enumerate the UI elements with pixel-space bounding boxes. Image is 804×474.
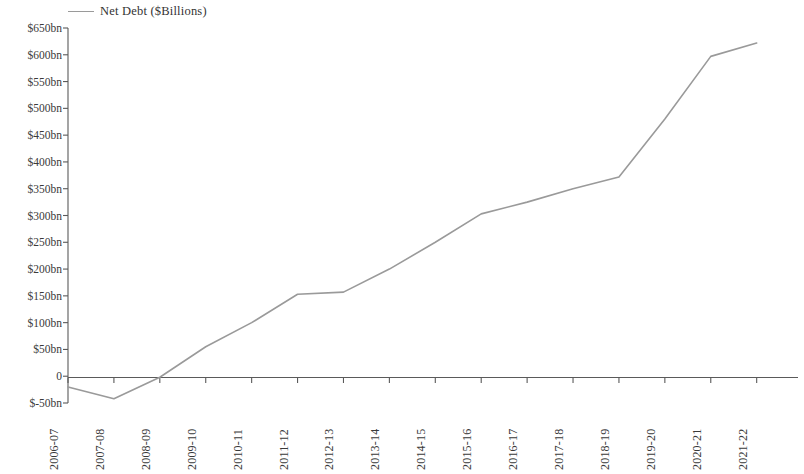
x-axis-tick-label: 2019-20 <box>644 429 659 470</box>
x-axis-tick-label: 2017-18 <box>552 429 567 470</box>
net-debt-line-chart: Net Debt ($Billions) $650bn$600bn$550bn$… <box>0 0 804 474</box>
x-axis-tick-label: 2007-08 <box>93 429 108 470</box>
x-axis-tick-label: 2011-12 <box>277 429 292 470</box>
x-axis-tick-label: 2018-19 <box>598 429 613 470</box>
x-axis-tick-label: 2021-22 <box>736 429 751 470</box>
x-axis-tick-label: 2016-17 <box>506 429 521 470</box>
x-axis-tick-label: 2015-16 <box>460 429 475 470</box>
x-axis-tick-label: 2010-11 <box>231 429 246 470</box>
x-axis-tick-label: 2009-10 <box>185 429 200 470</box>
x-axis-tick-label: 2006-07 <box>47 429 62 470</box>
x-axis-tick-label: 2013-14 <box>368 429 383 470</box>
x-axis-tick-label: 2008-09 <box>139 429 154 470</box>
x-axis-labels: 2006-072007-082008-092009-102010-112011-… <box>0 0 804 474</box>
x-axis-tick-label: 2012-13 <box>322 429 337 470</box>
x-axis-tick-label: 2014-15 <box>414 429 429 470</box>
x-axis-tick-label: 2020-21 <box>690 429 705 470</box>
